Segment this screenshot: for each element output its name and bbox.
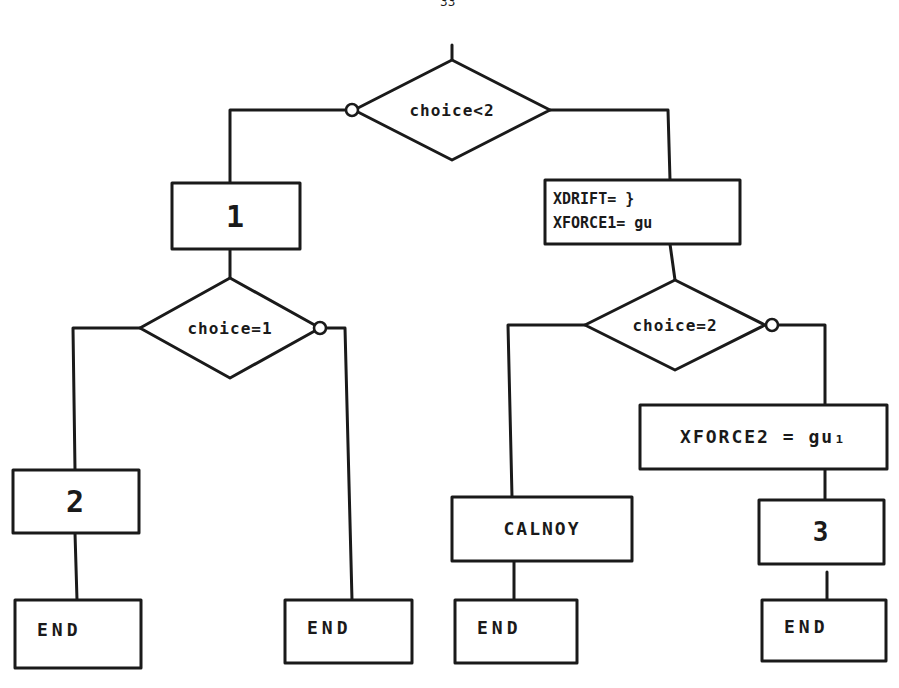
negation-circle-icon [314,322,326,334]
decision-d1: choice=1 [140,278,320,378]
process-label: 3 [813,517,831,547]
terminal-label: END [37,619,82,640]
connector-d1-to-end2 [326,328,352,600]
process-label: 2 [66,484,86,519]
decision-label: choice<2 [409,101,494,120]
process-p1: 1 [172,183,300,249]
terminal-label: END [784,616,829,637]
process-p_calnoy: CALNOY [452,497,632,561]
flowchart-canvas: 33 choice<2choice=1choice=21XDRIFT= }XFO… [0,0,899,688]
process-label-line: XFORCE1= gu [553,214,652,232]
page-number: 33 [440,0,455,9]
process-p_xforce2: XFORCE2 = gu₁ [640,405,887,469]
terminal-label: END [477,617,522,638]
decision-d2: choice=2 [585,280,765,370]
connector-d1-to-p2 [73,328,140,470]
process-p_xdrift: XDRIFT= }XFORCE1= gu [545,180,740,244]
shape-layer: choice<2choice=1choice=21XDRIFT= }XFORCE… [13,60,887,668]
terminal-end3: END [455,600,577,663]
terminal-end2: END [285,600,412,663]
terminal-end1: END [15,600,141,668]
connector-d0-to-p_xdrift [550,110,670,180]
process-label: CALNOY [503,518,580,539]
connector-d0-to-p1 [230,110,346,183]
connector-d2-to-p_xforce2 [771,325,825,405]
terminal-end4: END [762,600,886,661]
process-label: 1 [226,199,246,234]
decision-label: choice=1 [187,319,272,338]
negation-circle-icon [766,319,778,331]
connector-d2-to-p_calnoy [508,325,585,497]
process-label: XFORCE2 = gu₁ [680,426,847,447]
decision-label: choice=2 [632,316,717,335]
decision-d0: choice<2 [354,60,550,160]
negation-circle-icon [346,104,358,116]
process-label-line: XDRIFT= } [553,190,634,208]
connector-p_xdrift-to-d2 [670,244,675,280]
process-p2: 2 [13,470,139,533]
terminal-label: END [307,617,352,638]
process-p3: 3 [759,500,884,564]
connector-p2-to-end1 [75,533,77,600]
